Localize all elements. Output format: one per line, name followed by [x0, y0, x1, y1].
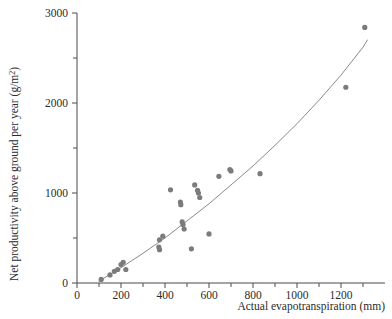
data-point — [107, 272, 112, 277]
data-point — [228, 168, 233, 173]
data-point — [123, 267, 128, 272]
data-point — [180, 222, 185, 227]
chart-figure: 0200400600800100012000100020003000Actual… — [0, 0, 392, 319]
x-tick-label: 600 — [200, 289, 218, 301]
data-point — [121, 260, 126, 265]
y-axis-title: Net productivity above ground per year (… — [8, 67, 22, 281]
data-point — [196, 190, 201, 195]
data-point — [182, 226, 187, 231]
data-point — [192, 182, 197, 187]
data-point — [257, 171, 262, 176]
fit-curve — [99, 40, 367, 281]
data-point — [168, 187, 173, 192]
y-tick-label: 2000 — [45, 97, 68, 109]
data-point — [160, 234, 165, 239]
data-point — [178, 202, 183, 207]
data-point — [343, 85, 348, 90]
data-point — [157, 247, 162, 252]
x-tick-label: 0 — [74, 289, 80, 301]
data-points-group — [99, 25, 368, 282]
x-axis-title: Actual evapotranspiration (mm) — [237, 300, 385, 313]
y-tick-label: 1000 — [45, 187, 68, 199]
scatter-plot-svg: 0200400600800100012000100020003000Actual… — [0, 0, 392, 319]
data-point — [362, 25, 367, 30]
data-point — [197, 195, 202, 200]
data-point — [216, 174, 221, 179]
data-point — [115, 267, 120, 272]
x-tick-label: 400 — [156, 289, 174, 301]
y-tick-label: 0 — [62, 277, 68, 289]
data-point — [206, 231, 211, 236]
y-tick-label: 3000 — [45, 7, 68, 19]
x-tick-label: 200 — [112, 289, 130, 301]
data-point — [99, 277, 104, 282]
data-point — [189, 246, 194, 251]
